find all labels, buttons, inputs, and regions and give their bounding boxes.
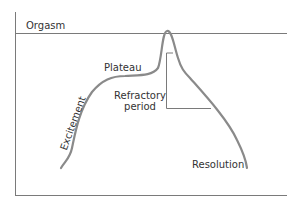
refractory-label-line2: period bbox=[112, 101, 168, 112]
refractory-bracket bbox=[167, 53, 212, 109]
orgasm-label: Orgasm bbox=[26, 20, 65, 31]
resolution-label: Resolution bbox=[192, 159, 244, 170]
refractory-label-line1: Refractory bbox=[112, 90, 168, 101]
plateau-label: Plateau bbox=[104, 62, 141, 73]
refractory-period-label: Refractory period bbox=[112, 90, 168, 112]
